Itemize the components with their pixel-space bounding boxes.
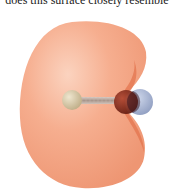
- molecular-surface-figure: [0, 0, 174, 193]
- left-atom: [62, 90, 82, 110]
